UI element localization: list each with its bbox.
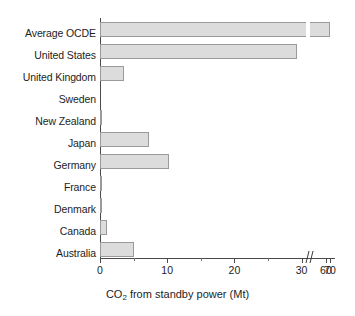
category-label-japan: Japan (0, 138, 96, 148)
bar-chart: Average OCDE United States United Kingdo… (0, 0, 355, 316)
x-axis-label: CO2 from standby power (Mt) (0, 288, 355, 300)
x-axis-label-prefix: CO (106, 288, 123, 300)
x-axis-label-suffix: from standby power (Mt) (127, 288, 249, 300)
bar-canada (100, 220, 107, 235)
x-minor-tick-25 (268, 258, 269, 261)
x-minor-tick-5 (134, 258, 135, 261)
category-label-united-states: United States (0, 50, 96, 60)
x-tick-label-0: 0 (97, 265, 103, 276)
category-axis: Average OCDE United States United Kingdo… (0, 0, 96, 316)
axis-break-icon (303, 250, 316, 264)
bar-average-ocde (100, 22, 330, 37)
x-axis-line (100, 258, 335, 259)
x-tick-20 (234, 258, 235, 263)
x-minor-tick-15 (201, 258, 202, 261)
x-tick-label-30: 30 (296, 265, 308, 276)
category-label-denmark: Denmark (0, 204, 96, 214)
bar-france (100, 176, 102, 191)
x-tick-label-70: 70 (324, 265, 336, 276)
x-tick-70 (330, 258, 331, 263)
plot-area (100, 18, 335, 258)
category-label-new-zealand: New Zealand (0, 116, 96, 126)
bar-denmark (100, 198, 102, 213)
bar-united-kingdom (100, 66, 124, 81)
x-tick-0 (100, 258, 101, 263)
bar-japan (100, 132, 149, 147)
bar-australia (100, 242, 134, 257)
x-tick-60 (326, 258, 327, 263)
category-label-average-ocde: Average OCDE (0, 28, 96, 38)
category-label-sweden: Sweden (0, 94, 96, 104)
category-label-france: France (0, 182, 96, 192)
bar-new-zealand (100, 110, 102, 125)
bar-break-gap (306, 22, 310, 37)
x-tick-label-20: 20 (229, 265, 241, 276)
bar-germany (100, 154, 169, 169)
category-label-germany: Germany (0, 160, 96, 170)
x-tick-10 (167, 258, 168, 263)
x-tick-label-10: 10 (161, 265, 173, 276)
bar-united-states (100, 44, 297, 59)
category-label-canada: Canada (0, 226, 96, 236)
x-axis-label-subscript: 2 (122, 293, 126, 302)
category-label-united-kingdom: United Kingdom (0, 72, 96, 82)
category-label-australia: Australia (0, 248, 96, 258)
